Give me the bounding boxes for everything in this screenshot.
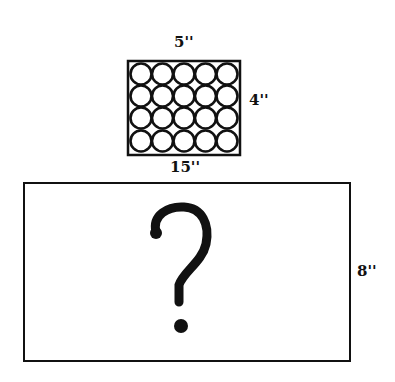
large-box-height-label: 8'' (357, 262, 377, 280)
large-box-width-label: 15'' (170, 158, 200, 176)
small-box-width-label: 5'' (174, 33, 194, 51)
question-mark-hook (150, 227, 162, 239)
diagram-canvas (0, 0, 395, 382)
small-box-height-label: 4'' (249, 91, 269, 109)
question-mark-dot (174, 319, 188, 333)
